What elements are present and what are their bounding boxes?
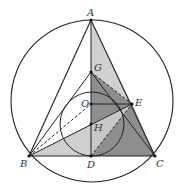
label-H: H xyxy=(93,122,103,133)
diagram-svg: A G O H D B C E xyxy=(0,0,179,193)
label-A: A xyxy=(86,7,94,18)
label-O: O xyxy=(81,98,89,109)
point-E xyxy=(130,102,133,105)
point-G xyxy=(89,70,92,73)
point-B xyxy=(27,154,30,157)
point-A xyxy=(89,18,92,21)
label-C: C xyxy=(156,158,164,169)
label-G: G xyxy=(94,62,102,73)
label-B: B xyxy=(19,158,27,169)
label-E: E xyxy=(134,97,143,108)
point-H xyxy=(89,122,92,125)
label-D: D xyxy=(86,159,95,170)
geometry-diagram: A G O H D B C E xyxy=(0,0,179,193)
point-O xyxy=(89,102,92,105)
point-D xyxy=(89,154,92,157)
